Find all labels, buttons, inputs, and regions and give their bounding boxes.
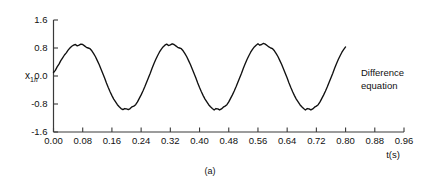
x-tick-label: 0.48 (220, 135, 239, 146)
annotation-difference-equation-line2: equation (361, 80, 397, 91)
y-tick-label: 0.8 (34, 42, 47, 53)
x-axis-tick-labels: 0.000.080.160.240.320.400.480.560.640.72… (44, 135, 413, 146)
x-tick-label: 0.80 (336, 135, 355, 146)
y-axis-label-sub-italic: n (34, 75, 38, 84)
x-axis-label: t(s) (386, 149, 400, 160)
y-axis-ticks (54, 20, 59, 132)
annotation-difference-equation-line1: Difference (361, 67, 404, 78)
x-tick-label: 0.24 (132, 135, 151, 146)
x-tick-label: 0.08 (73, 135, 92, 146)
x-tick-label: 0.32 (161, 135, 180, 146)
signal-trace (54, 43, 346, 110)
x-tick-label: 0.96 (395, 135, 414, 146)
x-axis-ticks (54, 128, 405, 133)
y-tick-label: -0.8 (31, 98, 47, 109)
x-tick-label: 0.56 (249, 135, 268, 146)
x-tick-label: 0.16 (103, 135, 122, 146)
x-tick-label: 0.40 (190, 135, 209, 146)
figure-container: 1.60.80.0-0.8-1.6 0.000.080.160.240.320.… (0, 0, 437, 182)
figure-caption: (a) (205, 166, 216, 176)
x-tick-label: 0.72 (307, 135, 326, 146)
x-tick-label: 0.00 (44, 135, 63, 146)
x-tick-label: 0.88 (366, 135, 385, 146)
waveform-chart: 1.60.80.0-0.8-1.6 0.000.080.160.240.320.… (0, 0, 437, 182)
y-tick-label: 1.6 (34, 14, 47, 25)
x-tick-label: 0.64 (278, 135, 297, 146)
